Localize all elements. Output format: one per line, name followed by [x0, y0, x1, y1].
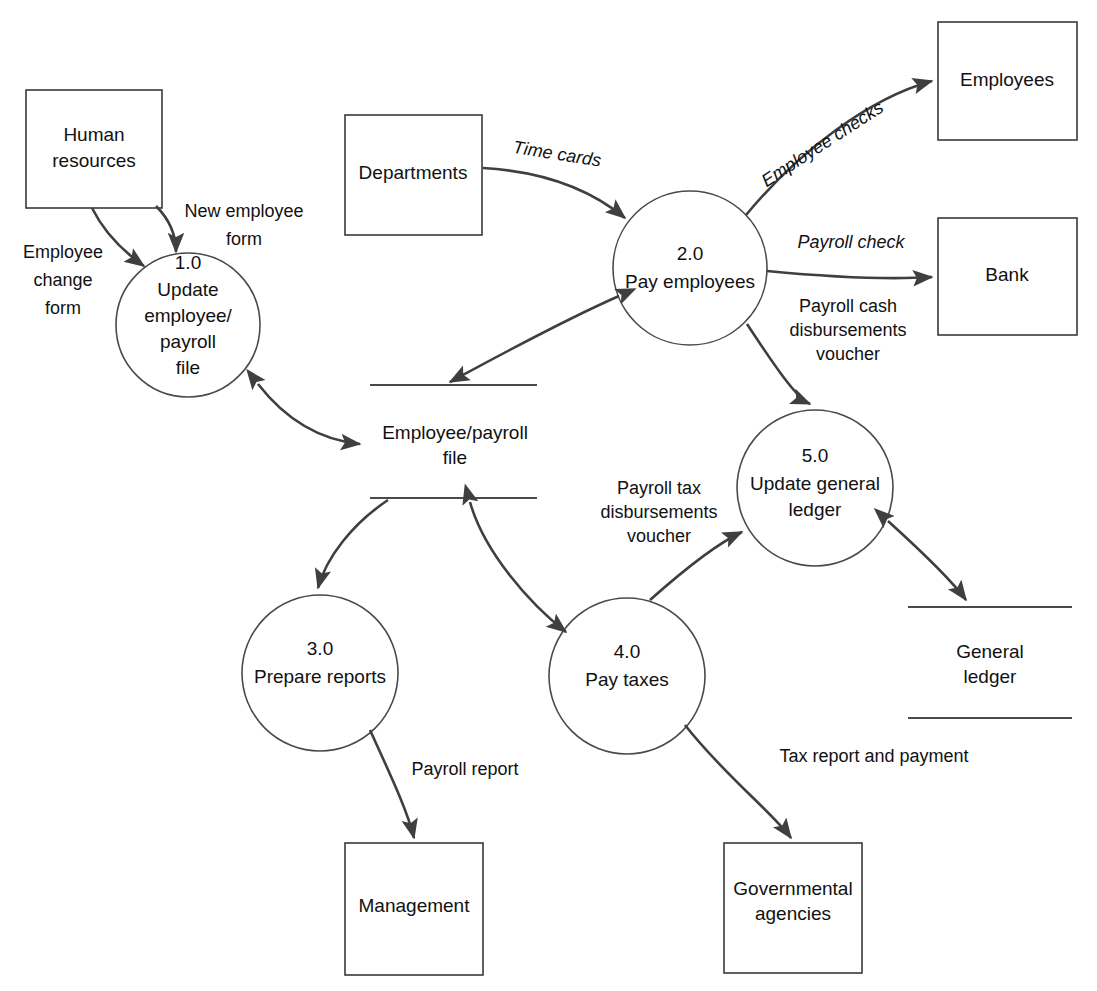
flow-label-employee-checks: Employee checks	[758, 97, 887, 191]
process-number: 3.0	[307, 638, 333, 659]
process-number: 5.0	[802, 445, 828, 466]
flow-label-line2: form	[226, 229, 262, 249]
entity-label-line1: Employees	[960, 69, 1054, 90]
store-label-line1: General	[956, 641, 1024, 662]
flow-arrow-store-employee-payroll-process3[interactable]	[318, 500, 388, 588]
flow-label-payroll-report: Payroll report	[411, 759, 518, 779]
process-name-line1: Prepare reports	[254, 666, 386, 687]
entity-label-line2: agencies	[755, 903, 831, 924]
data-flow-diagram: Human resources Departments Employees Ba…	[0, 0, 1097, 991]
entity-label-line1: Management	[359, 895, 471, 916]
flow-arrow-process5-store-general-ledger[interactable]	[888, 521, 966, 600]
flow-label-line3: voucher	[627, 526, 691, 546]
flow-label-line3: voucher	[816, 344, 880, 364]
flow-label-line1: Payroll cash	[799, 296, 897, 316]
process-name-line1: Pay employees	[625, 271, 755, 292]
flow-arrow-process1-store-employee-payroll[interactable]	[258, 384, 360, 444]
diagram-canvas: Human resources Departments Employees Ba…	[0, 0, 1097, 991]
store-label-line2: file	[443, 447, 467, 468]
flow-label-line2: change	[33, 270, 92, 290]
external-entity-management[interactable]: Management	[345, 843, 483, 975]
flow-label-payroll-cash-disbursements-voucher: Payroll cash disbursements voucher	[789, 296, 906, 364]
flow-label-payroll-check: Payroll check	[797, 232, 905, 252]
flow-label-line1: New employee	[184, 201, 303, 221]
flow-label-time-cards: Time cards	[512, 137, 603, 171]
flow-label-line1: Tax report and payment	[779, 746, 968, 766]
external-entity-bank[interactable]: Bank	[938, 218, 1077, 335]
flow-label-line1: Employee checks	[758, 97, 887, 191]
process-name-line3: payroll	[160, 331, 216, 352]
process-name-line2: employee/	[144, 305, 232, 326]
flow-label-line3: form	[45, 298, 81, 318]
process-number: 1.0	[175, 252, 201, 273]
entity-label-line1: Bank	[985, 264, 1029, 285]
flow-label-line2: disbursements	[600, 502, 717, 522]
process-5-update-general-ledger[interactable]: 5.0 Update general ledger	[737, 410, 893, 566]
process-number: 4.0	[614, 641, 640, 662]
flow-label-employee-change-form: Employee change form	[23, 242, 103, 318]
flow-arrow-store-employee-payroll-process4[interactable]	[470, 502, 566, 632]
process-3-prepare-reports[interactable]: 3.0 Prepare reports	[242, 595, 398, 751]
entity-label-line1: Human	[63, 124, 124, 145]
data-store-general-ledger[interactable]: General ledger	[908, 607, 1072, 718]
process-name-line1: Update general	[750, 473, 880, 494]
process-name-line1: Pay taxes	[585, 669, 668, 690]
external-entity-governmental-agencies[interactable]: Governmental agencies	[724, 843, 862, 973]
flow-label-line1: Time cards	[512, 137, 603, 171]
flow-label-payroll-tax-disbursements-voucher: Payroll tax disbursements voucher	[600, 478, 717, 546]
store-label-line1: Employee/payroll	[382, 422, 528, 443]
entity-label-line1: Governmental	[733, 878, 852, 899]
flow-arrow-payroll-report[interactable]	[370, 730, 414, 838]
flow-label-tax-report-and-payment: Tax report and payment	[779, 746, 968, 766]
data-store-employee-payroll-file[interactable]: Employee/payroll file	[370, 385, 537, 498]
flow-arrow-payroll-check[interactable]	[767, 271, 932, 278]
flow-arrow-time-cards[interactable]	[483, 168, 625, 218]
process-name-line4: file	[176, 357, 200, 378]
flow-label-line1: Payroll report	[411, 759, 518, 779]
flow-arrow-employee-checks[interactable]	[746, 81, 932, 215]
entity-label-line2: resources	[52, 150, 135, 171]
external-entity-human-resources[interactable]: Human resources	[26, 90, 162, 208]
process-4-pay-taxes[interactable]: 4.0 Pay taxes	[549, 598, 705, 754]
process-name-line2: ledger	[789, 499, 842, 520]
process-number: 2.0	[677, 243, 703, 264]
external-entity-departments[interactable]: Departments	[345, 115, 482, 235]
flow-label-line1: Payroll check	[797, 232, 905, 252]
flow-arrow-process2-store-employee-payroll[interactable]	[450, 296, 619, 382]
flow-label-line1: Employee	[23, 242, 103, 262]
flow-label-new-employee-form: New employee form	[184, 201, 303, 249]
entity-label-line1: Departments	[359, 162, 468, 183]
process-1-update-employee-payroll-file[interactable]: 1.0 Update employee/ payroll file	[116, 252, 260, 397]
flow-arrow-tax-report-and-payment[interactable]	[685, 725, 791, 838]
flow-label-line1: Payroll tax	[617, 478, 701, 498]
flow-arrow-new-employee-form[interactable]	[156, 206, 176, 252]
external-entity-employees[interactable]: Employees	[938, 22, 1077, 140]
flow-label-line2: disbursements	[789, 320, 906, 340]
store-label-line2: ledger	[964, 666, 1017, 687]
process-name-line1: Update	[157, 279, 218, 300]
process-2-pay-employees[interactable]: 2.0 Pay employees	[613, 191, 767, 345]
